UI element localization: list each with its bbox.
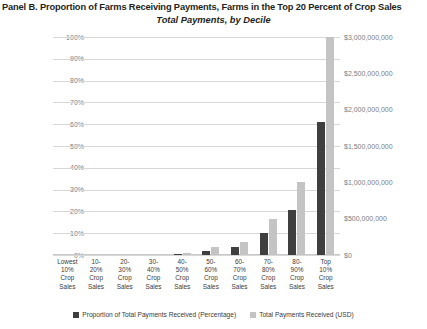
bar-group <box>53 37 82 255</box>
bar-usd <box>183 253 191 255</box>
bar-usd <box>297 182 305 255</box>
bar-percentage <box>260 233 268 255</box>
y-axis-right-tick: $0 <box>344 252 424 259</box>
bar-percentage <box>202 251 210 255</box>
x-axis-tick-label: Lowest10%CropSales <box>53 258 82 291</box>
bar-percentage <box>288 210 296 255</box>
bar-group <box>139 37 168 255</box>
y-axis-right-tick: $500,000,000 <box>344 215 424 222</box>
chart-panel: Panel B. Proportion of Farms Receiving P… <box>0 0 427 329</box>
x-axis-tick-label: 80-90%CropSales <box>283 258 312 291</box>
y-axis-right-tick: $1,000,000,000 <box>344 179 424 186</box>
bar-group <box>197 37 226 255</box>
legend-swatch-percentage-icon <box>73 312 79 318</box>
x-axis-tick-label: Top10%CropSales <box>311 258 340 291</box>
chart-legend: Proportion of Total Payments Received (P… <box>0 311 427 318</box>
x-axis-tick-label: 50-60%CropSales <box>197 258 226 291</box>
bar-usd <box>269 219 277 255</box>
y-axis-right-tick: $1,500,000,000 <box>344 143 424 150</box>
y-axis-right-tick: $2,000,000,000 <box>344 106 424 113</box>
bar-group <box>225 37 254 255</box>
x-axis-tick-label: 40-50%CropSales <box>168 258 197 291</box>
x-axis-tick-label: 20-30%CropSales <box>110 258 139 291</box>
bar-group <box>254 37 283 255</box>
bar-group <box>311 37 340 255</box>
bar-usd <box>240 242 248 255</box>
legend-label-percentage: Proportion of Total Payments Received (P… <box>82 311 236 318</box>
bar-group <box>110 37 139 255</box>
page-title: Panel B. Proportion of Farms Receiving P… <box>2 2 425 12</box>
bar-group <box>283 37 312 255</box>
y-axis-right-tick: $3,000,000,000 <box>344 34 424 41</box>
bar-group <box>82 37 111 255</box>
x-axis-tick-label: 10-20%CropSales <box>82 258 111 291</box>
bar-percentage <box>231 247 239 255</box>
bar-percentage <box>174 254 182 255</box>
bar-usd <box>326 37 334 255</box>
chart-subtitle: Total Payments, by Decile <box>0 15 427 25</box>
x-axis-tick-label: 60-70%CropSales <box>225 258 254 291</box>
x-axis-labels: Lowest10%CropSales10-20%CropSales20-30%C… <box>53 258 340 291</box>
legend-swatch-usd-icon <box>250 312 256 318</box>
x-axis-tick-label: 70-80%CropSales <box>254 258 283 291</box>
plot-area <box>53 37 340 255</box>
x-axis-tick-label: 30-40%CropSales <box>139 258 168 291</box>
legend-label-usd: Total Payments Received (USD) <box>259 311 354 318</box>
gridline <box>53 255 340 256</box>
legend-item-usd: Total Payments Received (USD) <box>250 311 354 318</box>
legend-item-percentage: Proportion of Total Payments Received (P… <box>73 311 236 318</box>
bar-group <box>168 37 197 255</box>
y-axis-right-tick: $2,500,000,000 <box>344 70 424 77</box>
bar-usd <box>211 247 219 255</box>
bar-percentage <box>317 122 325 255</box>
bar-series-container <box>53 37 340 255</box>
